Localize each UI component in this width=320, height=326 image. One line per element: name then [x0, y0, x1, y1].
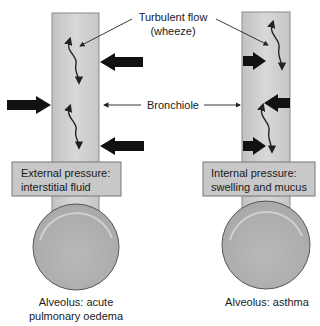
- right-box-line1: Internal pressure:: [211, 167, 297, 179]
- turbulent-flow-label: Turbulent flow (wheeze): [80, 11, 268, 46]
- right-panel-asthma: Internal pressure: swelling and mucus: [203, 12, 315, 289]
- turbulent-label-line2: (wheeze): [150, 25, 195, 37]
- turbulent-label-line1: Turbulent flow: [139, 11, 208, 23]
- external-pressure-arrow-icon: [100, 137, 144, 155]
- right-box-line2: swelling and mucus: [211, 181, 307, 193]
- bronchiole-diagram: External pressure: interstitial fluid In…: [0, 0, 320, 326]
- left-box-line1: External pressure:: [21, 167, 110, 179]
- right-caption-line1: Alveolus: asthma: [225, 296, 310, 308]
- right-alveolus: [222, 201, 310, 289]
- left-alveolus: [33, 204, 119, 290]
- left-caption-line1: Alveolus: acute: [39, 296, 114, 308]
- bronchiole-label: Bronchiole: [104, 99, 240, 111]
- bronchiole-label-text: Bronchiole: [147, 99, 199, 111]
- external-pressure-arrow-icon: [7, 96, 51, 114]
- external-pressure-arrow-icon: [100, 53, 143, 71]
- left-box-line2: interstitial fluid: [21, 181, 91, 193]
- left-panel-oedema: External pressure: interstitial fluid: [7, 13, 144, 290]
- left-caption-line2: pulmonary oedema: [29, 310, 124, 322]
